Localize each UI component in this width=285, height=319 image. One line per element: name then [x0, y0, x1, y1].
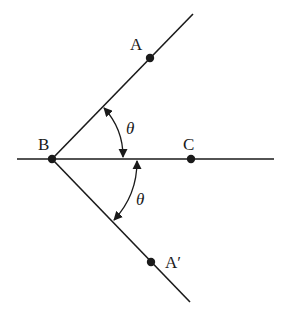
- label-b: B: [38, 135, 49, 154]
- label-a: A: [130, 35, 143, 54]
- reflection-angle-diagram: A B C A′ θ θ: [0, 0, 285, 319]
- label-theta-upper: θ: [126, 119, 134, 138]
- label-c: C: [183, 135, 194, 154]
- point-b: [48, 155, 56, 163]
- point-a-prime: [147, 258, 155, 266]
- point-a: [146, 54, 154, 62]
- angle-arc-upper: [104, 108, 123, 157]
- angle-arc-lower: [114, 161, 137, 220]
- point-c: [187, 155, 195, 163]
- label-a-prime: A′: [165, 253, 181, 272]
- ray-ba: [52, 14, 193, 159]
- ray-ba-prime: [52, 159, 190, 302]
- label-theta-lower: θ: [136, 190, 144, 209]
